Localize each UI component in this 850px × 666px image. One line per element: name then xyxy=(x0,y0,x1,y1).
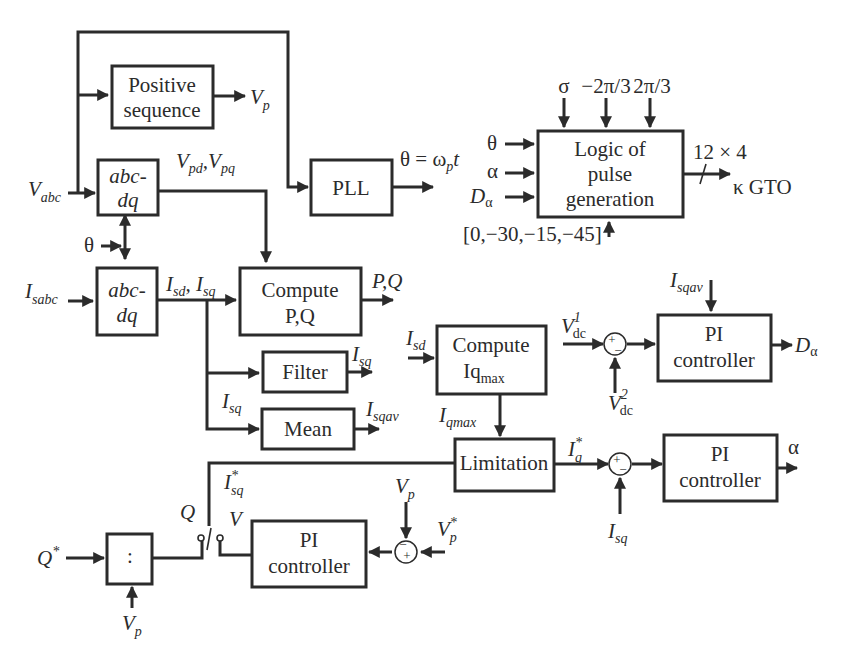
abc-dq-i-label-1: abc- xyxy=(108,278,145,302)
label-vp-div: Vp xyxy=(122,611,142,639)
label-alpha-out: α xyxy=(788,435,799,459)
label-isd-in: Isd xyxy=(405,326,426,353)
compute-pq-label-2: P,Q xyxy=(285,304,315,328)
label-isq-fb: Isq xyxy=(607,519,627,546)
label-vabc: Vabc xyxy=(28,177,62,205)
label-theta-logic: θ xyxy=(487,131,497,155)
label-isqav-out: Isqav xyxy=(365,397,399,424)
switch-contact-q[interactable] xyxy=(198,535,204,541)
filter-block[interactable]: Filter xyxy=(263,352,347,392)
switch-blade xyxy=(207,528,211,550)
label-q-switch: Q xyxy=(180,500,195,524)
pi-alpha-label-1: PI xyxy=(711,442,730,466)
limitation-label: Limitation xyxy=(460,451,549,475)
pi-controller-alpha-block[interactable]: PI controller xyxy=(664,435,777,501)
filter-label: Filter xyxy=(282,360,328,384)
label-d-alpha-out: Dα xyxy=(794,333,818,359)
pi-controller-v-block[interactable]: PI controller xyxy=(252,521,366,587)
abc-dq-current-block[interactable]: abc- dq xyxy=(97,268,157,335)
label-isq-filter: Isq xyxy=(351,342,371,369)
wire-vpd-vpq xyxy=(158,191,266,262)
wire-isq-star xyxy=(209,463,454,526)
abc-dq-v-label-1: abc- xyxy=(109,164,146,188)
label-neg-2pi-3: −2π/3 xyxy=(581,74,630,98)
divider-block[interactable]: : xyxy=(107,534,152,584)
summing-junction-dc: + − xyxy=(604,332,626,358)
sum-v-plus: + xyxy=(403,548,410,563)
pi-controller-dc-block[interactable]: PI controller xyxy=(658,315,771,381)
label-vp-out: Vp xyxy=(250,85,270,113)
pi-v-label-1: PI xyxy=(300,528,319,552)
label-vdc2: V2dc xyxy=(608,387,633,418)
label-vpd-vpq: Vpd,Vpq xyxy=(176,149,235,176)
logic-label-1: Logic of xyxy=(574,137,646,161)
sum-dc-minus: − xyxy=(614,343,621,358)
label-kappa-gto: κ GTO xyxy=(733,175,792,199)
label-12x4: 12 × 4 xyxy=(693,140,747,164)
logic-label-2: pulse xyxy=(588,162,632,186)
compute-iqmax-block[interactable]: Compute Iqmax xyxy=(437,326,546,394)
label-isq-star: I*sq xyxy=(223,468,243,498)
abc-dq-v-label-2: dq xyxy=(118,188,140,212)
positive-sequence-label-2: sequence xyxy=(124,98,201,122)
pll-block[interactable]: PLL xyxy=(311,160,392,215)
pi-dc-label-1: PI xyxy=(705,322,724,346)
mean-label: Mean xyxy=(284,417,332,441)
wire-pi-v-to-switch xyxy=(220,541,252,555)
control-block-diagram: Positive sequence abc- dq abc- dq PLL Lo… xyxy=(0,0,850,666)
pi-dc-label-2: controller xyxy=(673,348,755,372)
divider-label: : xyxy=(127,544,133,568)
sum-alpha-minus: − xyxy=(619,462,626,477)
label-alpha-logic: α xyxy=(487,159,498,183)
label-v-switch: V xyxy=(229,507,244,531)
label-isq-branch: Isq xyxy=(221,389,241,416)
abc-dq-i-label-2: dq xyxy=(117,303,139,327)
pll-label: PLL xyxy=(332,176,369,200)
positive-sequence-block[interactable]: Positive sequence xyxy=(112,66,213,128)
label-iq-star: I*q xyxy=(567,435,582,465)
abc-dq-voltage-block[interactable]: abc- dq xyxy=(98,160,158,215)
label-vp-fb: Vp xyxy=(395,474,415,502)
wire-divider-to-switch xyxy=(153,541,202,558)
label-2pi-3: 2π/3 xyxy=(633,74,670,98)
compute-pq-label-1: Compute xyxy=(262,278,339,302)
pi-v-label-2: controller xyxy=(268,554,350,578)
label-vdc1: V1dc xyxy=(561,310,586,341)
limitation-block[interactable]: Limitation xyxy=(455,439,554,491)
label-iqmax: Iqmax xyxy=(438,403,477,430)
pi-alpha-label-2: controller xyxy=(679,468,761,492)
label-isd-isq: Isd, Isq xyxy=(165,272,215,299)
label-isqav-in: Isqav xyxy=(669,268,703,295)
label-pq-out: P,Q xyxy=(371,269,403,293)
compute-pq-block[interactable]: Compute P,Q xyxy=(240,268,361,335)
label-vp-star: V*p xyxy=(437,515,457,545)
summing-junction-v: − + xyxy=(395,537,417,563)
label-d-alpha-logic: Dα xyxy=(469,184,493,210)
logic-pulse-generation-block[interactable]: Logic of pulse generation xyxy=(538,131,683,217)
label-sigma: σ xyxy=(558,74,569,98)
compute-iqmax-label-1: Compute xyxy=(453,333,530,357)
label-q-star: Q* xyxy=(37,544,59,570)
logic-label-3: generation xyxy=(566,187,655,211)
summing-junction-alpha: + − xyxy=(609,452,631,477)
mean-block[interactable]: Mean xyxy=(262,409,354,449)
label-offsets: [0,−30,−15,−45] xyxy=(463,222,602,246)
label-theta-in: θ xyxy=(84,233,94,257)
label-theta-pll: θ = ωpt xyxy=(400,147,460,174)
positive-sequence-label-1: Positive xyxy=(128,73,196,97)
switch-contact-v[interactable] xyxy=(217,535,223,541)
label-isabc: Isabc xyxy=(24,279,58,307)
